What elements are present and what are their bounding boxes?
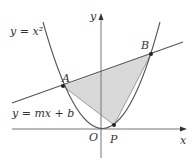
parabola-label: y = x² [9, 25, 43, 38]
line-label: y = mx + b [11, 107, 74, 120]
diagram-canvas: y = x² y = mx + b A B P O x y [0, 0, 192, 164]
y-axis-label: y [89, 10, 97, 23]
point-b-marker [149, 52, 153, 56]
x-axis-arrow-icon [180, 127, 187, 132]
y-axis-arrow-icon [99, 13, 104, 20]
point-p-label: P [109, 133, 118, 146]
x-axis-label: x [180, 134, 187, 147]
origin-label: O [89, 131, 98, 144]
point-p-marker [112, 123, 116, 127]
point-b-label: B [140, 39, 149, 52]
point-a-label: A [61, 72, 70, 85]
